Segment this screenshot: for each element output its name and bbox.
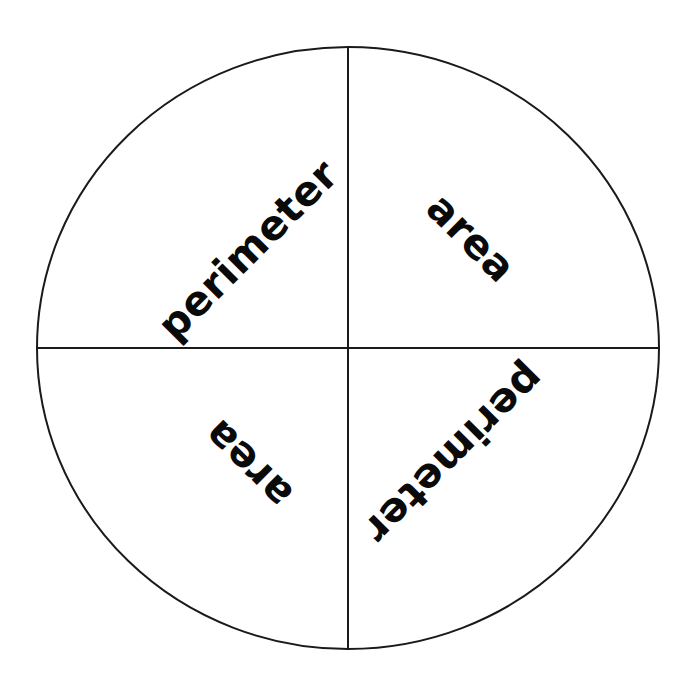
- spinner-figure: perimeter area perimeter area: [0, 0, 693, 689]
- spinner-canvas: perimeter area perimeter area: [0, 0, 693, 689]
